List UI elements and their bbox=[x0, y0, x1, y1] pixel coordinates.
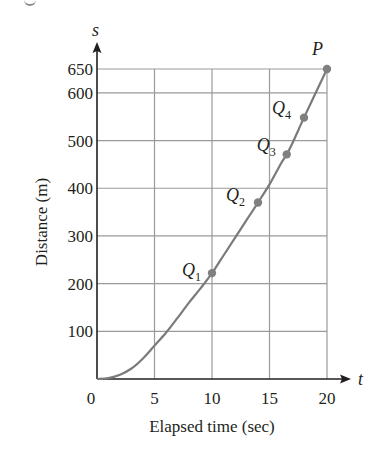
point-label-q3: Q3 bbox=[257, 135, 276, 159]
point-label-q1: Q1 bbox=[182, 260, 201, 284]
y-tick-label: 300 bbox=[68, 227, 94, 246]
grid bbox=[97, 69, 327, 379]
y-tick-label: 200 bbox=[68, 275, 94, 294]
y-axis-label: Distance (m) bbox=[32, 178, 51, 266]
x-tick-label: 0 bbox=[87, 389, 96, 408]
point-q1 bbox=[208, 269, 216, 277]
x-axis-variable: t bbox=[358, 369, 364, 389]
distance-time-chart: t s 05101520100200300400500600650 Elapse… bbox=[0, 0, 390, 462]
y-tick-label: 650 bbox=[68, 60, 94, 79]
point-label-q4: Q4 bbox=[272, 98, 291, 122]
point-q4 bbox=[300, 113, 308, 121]
x-tick-label: 10 bbox=[204, 389, 221, 408]
x-axis-label: Elapsed time (sec) bbox=[149, 417, 275, 436]
x-tick-label: 5 bbox=[150, 389, 159, 408]
y-axis-variable: s bbox=[92, 20, 99, 40]
y-tick-label: 500 bbox=[68, 132, 94, 151]
data-points: Q1Q2Q3Q4P bbox=[182, 39, 331, 284]
point-label-p: P bbox=[311, 39, 323, 59]
point-q3 bbox=[283, 150, 291, 158]
point-p bbox=[323, 65, 331, 73]
y-tick-label: 400 bbox=[68, 179, 94, 198]
tick-labels: 05101520100200300400500600650 bbox=[68, 60, 336, 408]
x-tick-label: 15 bbox=[261, 389, 278, 408]
y-tick-label: 100 bbox=[68, 322, 94, 341]
point-q2 bbox=[254, 198, 262, 206]
x-tick-label: 20 bbox=[319, 389, 336, 408]
y-tick-label: 600 bbox=[68, 84, 94, 103]
